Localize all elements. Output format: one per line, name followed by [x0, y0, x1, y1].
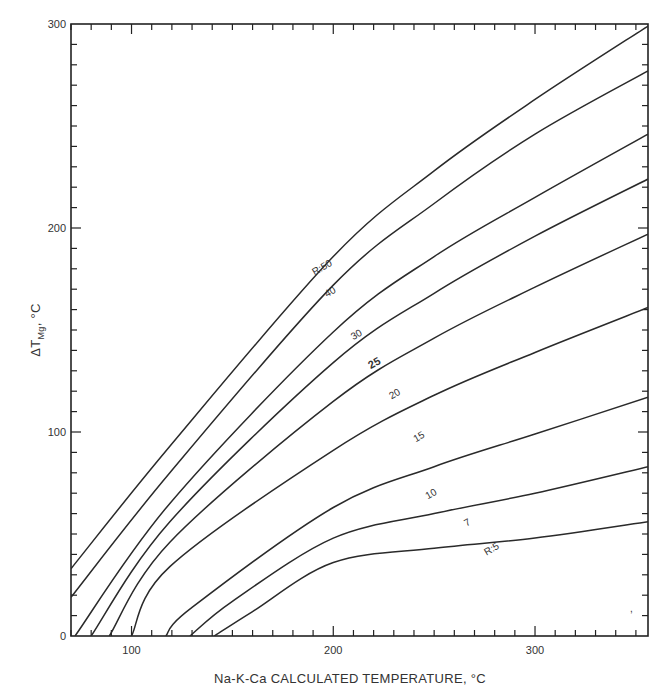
curve-labels: R:504030252015107R:5 [310, 257, 501, 557]
y-tick-label: 100 [48, 426, 66, 438]
curve-label: 15 [411, 429, 427, 444]
curve-r-25 [91, 179, 648, 636]
y-tick-label: 300 [48, 18, 66, 30]
y-axis-title-subscript: Mg [36, 326, 46, 339]
y-axis-title-main: ΔT [28, 339, 43, 356]
chart: 1002003000100200300 R:504030252015107R:5… [0, 0, 670, 700]
curve-r-15 [132, 308, 648, 636]
x-tick-label: 300 [526, 644, 544, 656]
curve-r-7 [190, 467, 648, 636]
stray-mark: , [630, 603, 633, 614]
curve-label: 20 [387, 386, 403, 401]
y-axis-title-unit: , °C [28, 303, 43, 326]
curve-r-5 [214, 522, 648, 636]
curve-label: 10 [423, 486, 439, 501]
x-tick-label: 200 [324, 644, 342, 656]
curve-r-10 [166, 397, 648, 636]
curve-r-30 [75, 134, 648, 636]
y-tick-label: 200 [48, 222, 66, 234]
svg-text:ΔTMg, °C: ΔTMg, °C [28, 303, 46, 356]
curve-label: 7 [462, 516, 473, 529]
curve-label: 40 [322, 284, 338, 299]
x-tick-label: 100 [122, 644, 140, 656]
y-axis-title: ΔTMg, °C [28, 303, 46, 356]
y-tick-label: 0 [60, 630, 66, 642]
x-axis-title: Na-K-Ca CALCULATED TEMPERATURE, °C [214, 671, 486, 686]
tick-labels: 1002003000100200300 [48, 18, 545, 656]
